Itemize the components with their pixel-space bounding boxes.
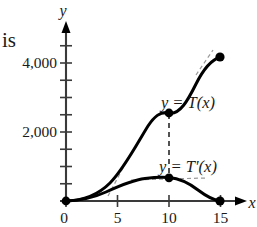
page-text-fragment: is	[2, 28, 16, 53]
curve-label-T-prime: y = T′(x)	[157, 157, 217, 176]
y-tick-label-2000: 2,000	[22, 123, 57, 140]
y-axis-label: y	[57, 2, 67, 20]
origin-point	[62, 197, 71, 206]
curve-label-T: y = T(x)	[159, 93, 215, 112]
endpoint-T-prime-point	[215, 196, 224, 205]
y-axis-arrowhead	[62, 21, 71, 33]
x-axis-label: x	[247, 194, 255, 211]
endpoint-T-point	[215, 52, 224, 61]
y-axis	[62, 21, 71, 203]
x-tick-label-15: 15	[213, 209, 229, 226]
graph-figure: is	[0, 0, 257, 227]
x-tick-label-5: 5	[114, 209, 122, 226]
x-tick-label-0: 0	[60, 209, 68, 226]
x-axis-arrowhead	[235, 197, 247, 206]
curve-T-prime	[66, 177, 220, 201]
x-tick-label-10: 10	[161, 209, 177, 226]
graph-svg: y x 4,000 2,000 0 5 10 15 y = T(x) y = T…	[0, 0, 257, 227]
y-tick-label-4000: 4,000	[22, 54, 57, 71]
